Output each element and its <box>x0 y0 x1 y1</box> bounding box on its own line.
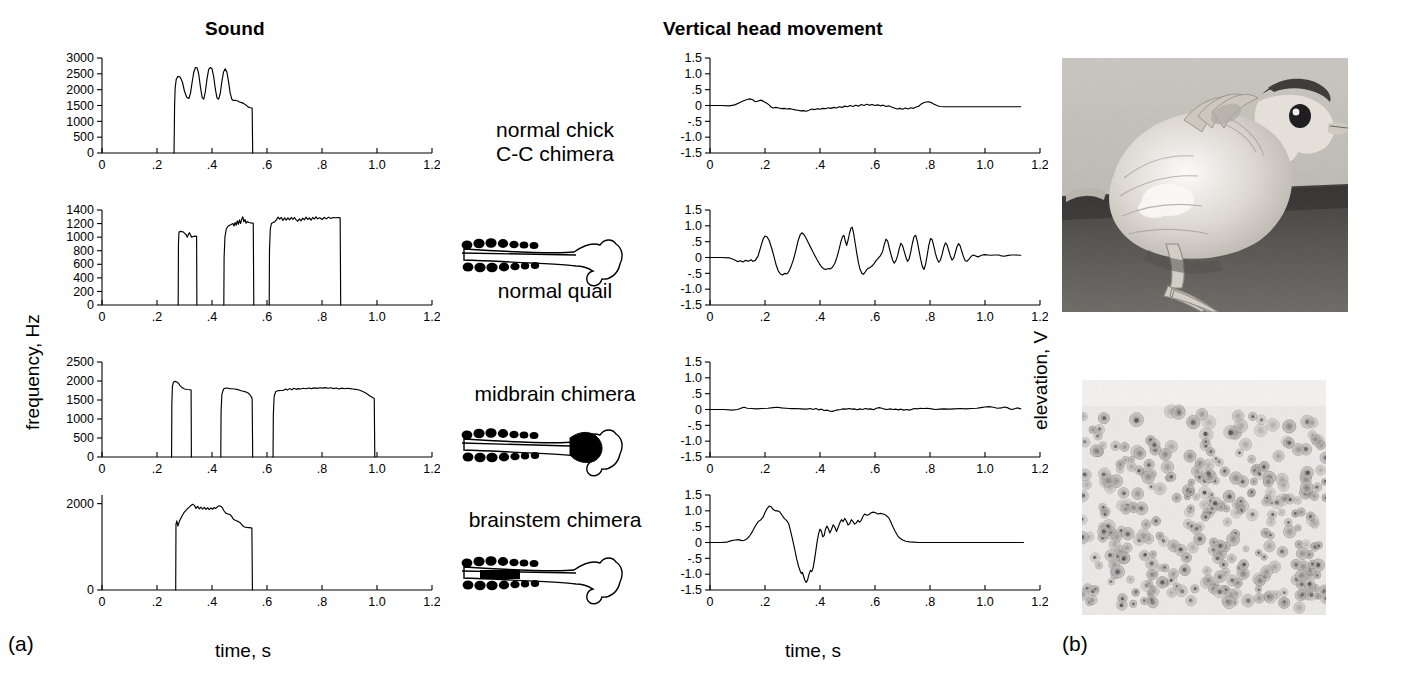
svg-text:.6: .6 <box>870 310 880 324</box>
svg-text:.2: .2 <box>760 158 770 172</box>
svg-text:1.5: 1.5 <box>685 203 702 217</box>
chick-photo <box>1062 58 1348 312</box>
movement-x-axis-title: time, s <box>785 640 841 662</box>
svg-text:.5: .5 <box>692 387 702 401</box>
svg-text:.8: .8 <box>317 310 327 324</box>
sound-x-axis-title: time, s <box>215 640 271 662</box>
svg-text:-1.0: -1.0 <box>680 282 702 296</box>
svg-text:0: 0 <box>707 310 714 324</box>
svg-text:800: 800 <box>73 244 94 258</box>
svg-text:1500: 1500 <box>66 99 94 113</box>
svg-text:1.2: 1.2 <box>1031 462 1048 476</box>
svg-text:1400: 1400 <box>66 203 94 217</box>
svg-text:.4: .4 <box>815 158 825 172</box>
svg-text:-1.5: -1.5 <box>680 450 702 464</box>
svg-text:0: 0 <box>87 450 94 464</box>
chart-sound-normal-chick: 0500100015002000250030000.2.4.6.81.01.2 <box>40 48 440 179</box>
chart-sound-brainstem-chimera: 020000.2.4.6.81.01.2 <box>40 485 440 616</box>
svg-text:-.5: -.5 <box>687 115 702 129</box>
row-label-normal-chick: normal chick C-C chimera <box>440 118 670 165</box>
svg-text:.8: .8 <box>925 310 935 324</box>
chart-movement-normal-quail: -1.5-1.0-.50.51.01.50.2.4.6.81.01.2 <box>648 200 1048 331</box>
svg-text:1200: 1200 <box>66 217 94 231</box>
svg-text:0: 0 <box>695 403 702 417</box>
svg-text:.2: .2 <box>152 462 162 476</box>
brain-diagram-normal-quail <box>452 222 632 298</box>
part-b-label: (b) <box>1062 632 1088 656</box>
svg-text:0: 0 <box>695 99 702 113</box>
svg-text:.8: .8 <box>925 595 935 609</box>
svg-text:1000: 1000 <box>66 230 94 244</box>
svg-text:1.0: 1.0 <box>685 67 702 81</box>
svg-text:.2: .2 <box>760 310 770 324</box>
svg-text:.5: .5 <box>692 520 702 534</box>
svg-text:0: 0 <box>99 595 106 609</box>
svg-text:0: 0 <box>695 251 702 265</box>
svg-text:.4: .4 <box>815 310 825 324</box>
svg-text:0: 0 <box>87 298 94 312</box>
svg-text:.6: .6 <box>262 595 272 609</box>
svg-text:.6: .6 <box>870 595 880 609</box>
svg-text:1.0: 1.0 <box>685 371 702 385</box>
chart-sound-midbrain-chimera: 050010001500200025000.2.4.6.81.01.2 <box>40 352 440 483</box>
svg-text:.6: .6 <box>262 158 272 172</box>
svg-text:-1.5: -1.5 <box>680 146 702 160</box>
svg-text:1.5: 1.5 <box>685 355 702 369</box>
svg-text:.4: .4 <box>207 595 217 609</box>
svg-text:500: 500 <box>73 130 94 144</box>
svg-text:-1.5: -1.5 <box>680 583 702 597</box>
svg-text:.8: .8 <box>317 595 327 609</box>
movement-column-title: Vertical head movement <box>663 18 883 40</box>
svg-text:.6: .6 <box>870 158 880 172</box>
svg-text:.8: .8 <box>925 462 935 476</box>
svg-text:2000: 2000 <box>66 374 94 388</box>
svg-text:2500: 2500 <box>66 355 94 369</box>
svg-text:1.0: 1.0 <box>368 462 385 476</box>
svg-text:.4: .4 <box>815 462 825 476</box>
svg-text:0: 0 <box>707 158 714 172</box>
svg-text:.2: .2 <box>152 310 162 324</box>
svg-text:.4: .4 <box>207 462 217 476</box>
svg-text:1500: 1500 <box>66 393 94 407</box>
chart-sound-normal-quail: 02004006008001000120014000.2.4.6.81.01.2 <box>40 200 440 331</box>
svg-text:1000: 1000 <box>66 115 94 129</box>
svg-text:-1.0: -1.0 <box>680 130 702 144</box>
svg-text:-1.5: -1.5 <box>680 298 702 312</box>
part-a-label: (a) <box>8 632 34 656</box>
svg-text:400: 400 <box>73 271 94 285</box>
svg-text:1.0: 1.0 <box>368 595 385 609</box>
svg-text:600: 600 <box>73 257 94 271</box>
svg-text:0: 0 <box>99 462 106 476</box>
chart-movement-normal-chick: -1.5-1.0-.50.51.01.50.2.4.6.81.01.2 <box>648 48 1048 179</box>
chart-movement-brainstem-chimera: -1.5-1.0-.50.51.01.50.2.4.6.81.01.2 <box>648 485 1048 616</box>
svg-text:-.5: -.5 <box>687 552 702 566</box>
svg-text:.4: .4 <box>207 158 217 172</box>
svg-text:1.0: 1.0 <box>685 219 702 233</box>
svg-text:2500: 2500 <box>66 67 94 81</box>
svg-text:1.2: 1.2 <box>423 310 440 324</box>
svg-text:0: 0 <box>87 583 94 597</box>
svg-text:-.5: -.5 <box>687 267 702 281</box>
svg-text:1000: 1000 <box>66 412 94 426</box>
svg-text:.6: .6 <box>870 462 880 476</box>
svg-text:1.0: 1.0 <box>368 310 385 324</box>
brain-diagram-brainstem-chimera <box>452 540 632 616</box>
row-label-midbrain-chimera: midbrain chimera <box>440 382 670 406</box>
svg-text:0: 0 <box>87 146 94 160</box>
svg-text:1.0: 1.0 <box>976 158 993 172</box>
svg-text:-1.0: -1.0 <box>680 567 702 581</box>
sound-column-title: Sound <box>205 18 265 40</box>
svg-text:0: 0 <box>99 158 106 172</box>
svg-text:2000: 2000 <box>66 83 94 97</box>
svg-text:1.2: 1.2 <box>1031 310 1048 324</box>
svg-text:.2: .2 <box>760 462 770 476</box>
brain-diagram-midbrain-chimera <box>452 412 632 488</box>
svg-text:1.2: 1.2 <box>423 462 440 476</box>
svg-text:1.2: 1.2 <box>423 158 440 172</box>
svg-text:-.5: -.5 <box>687 419 702 433</box>
svg-text:.5: .5 <box>692 235 702 249</box>
svg-text:0: 0 <box>707 462 714 476</box>
svg-text:.6: .6 <box>262 310 272 324</box>
svg-text:.4: .4 <box>815 595 825 609</box>
chart-movement-midbrain-chimera: -1.5-1.0-.50.51.01.50.2.4.6.81.01.2 <box>648 352 1048 483</box>
